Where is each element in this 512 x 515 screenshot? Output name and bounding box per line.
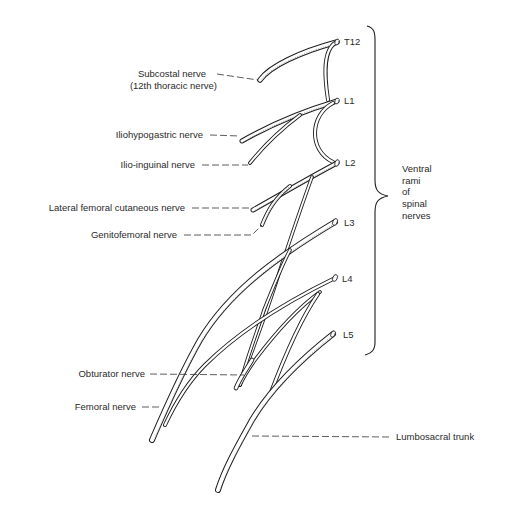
root-label-l1: L1 xyxy=(344,95,355,106)
t12-l1-connection xyxy=(325,43,335,100)
brace-label-line-4: spinal xyxy=(402,198,427,209)
label-obturator-nerve: Obturator nerve xyxy=(78,368,145,379)
lateral-femoral-cutaneous-nerve xyxy=(253,163,337,211)
lumbosacral-trunk xyxy=(218,334,333,490)
leader-iliohypogastric xyxy=(210,135,240,136)
root-label-l5: L5 xyxy=(343,329,354,340)
leader-subcostal xyxy=(217,74,258,80)
l3-root-cap xyxy=(331,218,338,226)
l5-root-cap xyxy=(330,330,336,338)
brace-label: Ventral rami of spinal nerves xyxy=(402,163,432,221)
nerve-labels: Subcostal nerve (12th thoracic nerve) Il… xyxy=(49,68,475,442)
lumbar-plexus-diagram: T12 L1 L2 L3 L4 L5 Ventral rami of spina… xyxy=(0,0,512,515)
root-label-t12: T12 xyxy=(344,36,360,47)
nerves xyxy=(152,38,340,490)
genitofemoral-nerve xyxy=(262,186,290,225)
root-labels: T12 L1 L2 L3 L4 L5 xyxy=(342,36,360,340)
l1-l2-connection xyxy=(315,103,333,162)
root-label-l3: L3 xyxy=(344,217,355,228)
t12-root-cap xyxy=(334,38,340,45)
label-subcostal-nerve: Subcostal nerve xyxy=(138,68,206,79)
l2-root-cap xyxy=(334,159,340,167)
label-ilioinguinal-nerve: Ilio-inguinal nerve xyxy=(121,159,195,170)
brace-label-line-1: Ventral xyxy=(402,163,432,174)
root-label-l2: L2 xyxy=(345,157,356,168)
leader-genitofemoral xyxy=(184,225,262,235)
label-lumbosacral-trunk: Lumbosacral trunk xyxy=(396,431,474,442)
leader-lumbosacral-trunk xyxy=(252,436,390,437)
label-femoral-nerve: Femoral nerve xyxy=(75,401,136,412)
label-genitofemoral-nerve: Genitofemoral nerve xyxy=(91,229,177,240)
brace-label-line-5: nerves xyxy=(402,210,431,221)
root-label-l4: L4 xyxy=(342,273,353,284)
brace-label-line-2: rami xyxy=(402,175,420,186)
label-lateral-femoral-cutaneous-nerve: Lateral femoral cutaneous nerve xyxy=(49,202,185,213)
label-subcostal-nerve-sub: (12th thoracic nerve) xyxy=(130,80,217,91)
brace-label-line-3: of xyxy=(402,186,410,197)
label-iliohypogastric-nerve: Iliohypogastric nerve xyxy=(116,129,203,140)
ventral-rami-brace xyxy=(365,26,388,355)
l4-root-cap xyxy=(331,274,338,282)
l1-root-cap xyxy=(334,97,340,104)
